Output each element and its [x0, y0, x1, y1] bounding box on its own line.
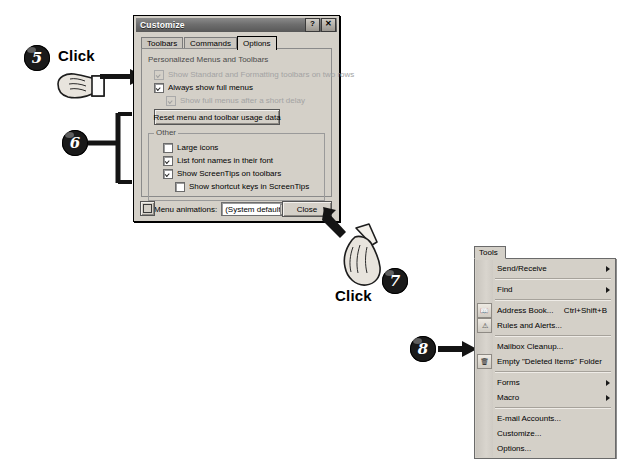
checkbox-screentips[interactable]	[163, 169, 173, 179]
menu-item-label: Empty "Deleted Items" Folder	[497, 357, 602, 366]
callout-5-click-label: Click	[58, 47, 95, 64]
menu-item-options[interactable]: Options...	[475, 441, 615, 456]
menu-item-shortcut: Ctrl+Shift+B	[564, 306, 607, 315]
option-screentips-label: Show ScreenTips on toolbars	[177, 169, 281, 178]
menu-item-label: E-mail Accounts...	[497, 414, 561, 423]
menu-item-find[interactable]: Find	[475, 282, 615, 297]
menu-separator	[495, 299, 611, 301]
option-large-icons[interactable]: Large icons	[163, 142, 218, 153]
option-list-font-names-label: List font names in their font	[177, 156, 273, 165]
dialog-title: Customize	[136, 20, 185, 30]
submenu-arrow-icon	[606, 395, 610, 401]
submenu-arrow-icon	[606, 287, 610, 293]
callout-badge-7: 7	[382, 268, 408, 294]
menu-item-customize[interactable]: Customize...	[475, 426, 615, 441]
checkbox-list-font-names[interactable]	[163, 156, 173, 166]
option-shortcut-keys-label: Show shortcut keys in ScreenTips	[189, 182, 309, 191]
option-always-full-menus-label: Always show full menus	[168, 83, 253, 92]
menu-item-label: Forms	[497, 378, 520, 387]
tab-options[interactable]: Options	[237, 36, 277, 50]
tools-menu-button-label: Tools	[479, 248, 498, 257]
menu-item-label: Address Book...	[497, 306, 553, 315]
keyboard-button[interactable]	[140, 201, 155, 216]
reset-usage-data-button[interactable]: Reset menu and toolbar usage data	[154, 109, 280, 125]
menu-item-rules-and-alerts[interactable]: ⚠ Rules and Alerts...	[475, 318, 615, 333]
other-group-label: Other	[154, 128, 178, 137]
option-always-full-menus[interactable]: Always show full menus	[154, 82, 253, 93]
checkbox-shortcut-keys[interactable]	[175, 182, 185, 192]
options-tab-panel: Personalized Menus and Toolbars Show Sta…	[141, 48, 332, 197]
option-two-rows: Show Standard and Formatting toolbars on…	[154, 69, 354, 80]
menu-item-address-book[interactable]: 📖 Address Book... Ctrl+Shift+B	[475, 303, 615, 318]
submenu-arrow-icon	[606, 266, 610, 272]
option-shortcut-keys[interactable]: Show shortcut keys in ScreenTips	[175, 181, 309, 192]
menu-animations-row: Menu animations: (System default)	[154, 202, 297, 216]
menu-separator	[495, 335, 611, 337]
tools-menu-button[interactable]: Tools	[474, 246, 506, 259]
menu-item-label: Find	[497, 285, 513, 294]
personalized-section-label: Personalized Menus and Toolbars	[148, 55, 268, 64]
callout-badge-5: 5	[24, 45, 50, 71]
option-full-menus-delay-label: Show full menus after a short delay	[180, 96, 305, 105]
menu-item-label: Send/Receive	[497, 264, 547, 273]
option-list-font-names[interactable]: List font names in their font	[163, 155, 273, 166]
menu-item-label: Mailbox Cleanup...	[497, 342, 563, 351]
menu-item-macro[interactable]: Macro	[475, 390, 615, 405]
callout-8-arrow	[438, 341, 478, 357]
callout-badge-8: 8	[410, 336, 436, 362]
callout-badge-6: 6	[62, 130, 88, 156]
tools-menu-panel: Send/Receive Find 📖 Address Book... Ctrl…	[474, 258, 616, 459]
menu-separator	[495, 278, 611, 280]
checkbox-full-menus-delay	[166, 96, 176, 106]
checkbox-large-icons[interactable]	[163, 143, 173, 153]
other-group: Other Large icons List font names in the…	[148, 133, 325, 201]
menu-item-email-accounts[interactable]: E-mail Accounts...	[475, 411, 615, 426]
menu-separator	[495, 371, 611, 373]
menu-separator	[495, 407, 611, 409]
help-icon[interactable]: ?	[305, 18, 320, 32]
menu-item-forms[interactable]: Forms	[475, 375, 615, 390]
menu-item-label: Macro	[497, 393, 519, 402]
menu-item-label: Options...	[497, 444, 531, 453]
menu-item-label: Customize...	[497, 429, 541, 438]
callout-7-click-label: Click	[335, 287, 372, 304]
menu-animations-label: Menu animations:	[154, 205, 217, 214]
option-full-menus-delay: Show full menus after a short delay	[166, 95, 305, 106]
checkbox-two-rows	[154, 70, 164, 80]
customize-dialog: Customize ? ✕ Toolbars Commands Options …	[133, 15, 340, 222]
submenu-arrow-icon	[606, 380, 610, 386]
menu-item-label: Rules and Alerts...	[497, 321, 562, 330]
menu-item-send-receive[interactable]: Send/Receive	[475, 261, 615, 276]
option-screentips[interactable]: Show ScreenTips on toolbars	[163, 168, 281, 179]
menu-item-empty-deleted-items[interactable]: 🗑 Empty "Deleted Items" Folder	[475, 354, 615, 369]
rules-alerts-icon: ⚠	[477, 318, 492, 333]
option-large-icons-label: Large icons	[177, 143, 218, 152]
checkbox-always-full-menus[interactable]	[154, 83, 164, 93]
address-book-icon: 📖	[477, 303, 492, 318]
trash-icon: 🗑	[477, 354, 492, 369]
dialog-body: Toolbars Commands Options Personalized M…	[136, 34, 337, 219]
option-two-rows-label: Show Standard and Formatting toolbars on…	[168, 70, 354, 79]
dialog-title-bar: Customize ? ✕	[136, 18, 337, 32]
menu-item-mailbox-cleanup[interactable]: Mailbox Cleanup...	[475, 339, 615, 354]
close-icon[interactable]: ✕	[321, 18, 336, 32]
menu-animations-value: (System default)	[222, 205, 283, 214]
